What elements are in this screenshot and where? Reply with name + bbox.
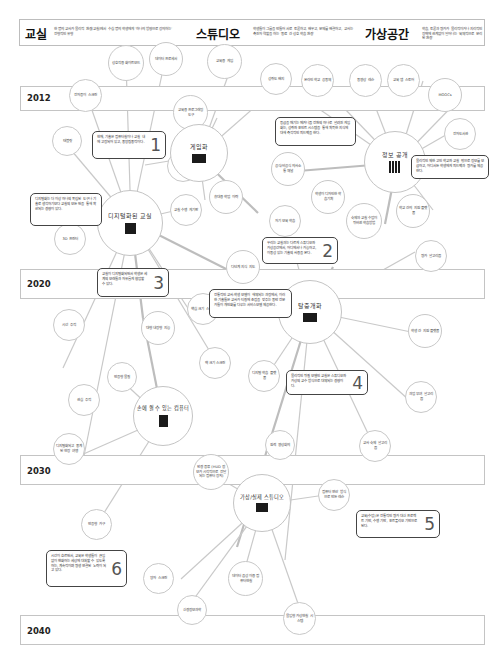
node-formal-informal-channels: 공식/비공식 의사소통 채널: [271, 152, 305, 186]
note-number: 4: [352, 380, 363, 385]
hub-label: 정보 공개: [382, 151, 408, 159]
node-digital-field-trip: 디지털화되고 중계된 현장 여행: [53, 433, 85, 465]
hub-label: 탈중개화: [298, 302, 322, 310]
node-educational-games: 교육용 게임: [207, 44, 242, 79]
note-4: 물리적인 뒤질 모델인 교실은 스튜디오와 가상의 교수 방식으로 대체되는 경…: [286, 370, 368, 395]
note-number: 1: [150, 143, 161, 148]
node-classroom-performance-board: 교실 수행 게기판: [170, 194, 202, 226]
note-disaggregation: 전통적인 교사-학생 모델이 해체되는 과정에서, 이러한 기술들은 교사가 티…: [209, 289, 292, 318]
node-student-designed-learning: 학생이 디자인한 학습기획: [311, 180, 345, 214]
note-6: 시간이 흐르면서, 교육은 학생들이 끊임없이 변화하는 세상에 대처할 수 있…: [46, 550, 127, 587]
year-label: 2012: [27, 93, 51, 103]
node-adaptive-material: 반응형 물질: [107, 362, 137, 392]
node-peer-platform: 학생 간 지원 플랫폼: [408, 314, 442, 348]
node-achievement-badge: 성취도 배지: [260, 63, 292, 95]
touch-screen-icon: [125, 223, 136, 234]
virtual-space-description: 학습, 토론과 평가가 물리적이거나 지리적인 장벽에 관계없이 일어나는 '육…: [422, 27, 484, 41]
node-inter-school-platform: 학교 간의 지원 플랫폼: [396, 194, 430, 228]
note-number: 3: [153, 280, 164, 285]
note-2: 우리는 교실과는 다르게 스튜디오와 가상공간에서, 어디에서나 가능하고, 이…: [262, 237, 338, 264]
note-number: 5: [424, 522, 435, 527]
studio-description: 학생들이 그룹을 만들어 서로 토론하고, 배우고, 문제를 해결하고, 교사는…: [253, 27, 353, 36]
classroom-title: 교실: [25, 25, 47, 42]
node-shape-screen: 양자 스크린: [143, 563, 174, 594]
shuffle-icon: [303, 313, 317, 322]
note-digital-classroom: 디지털화는 더 이상 하나의 독립된 도구나 기술로 생각하기보다 교실의 모든…: [30, 193, 102, 226]
header-legend: 교실 한 명의 교사가 물리적 환경(교실)에서 수십 명의 학생에게 '하나의…: [19, 19, 485, 46]
note-3: 교실이 디지털화되면서 학생은 세계의 모래들과 자유롭게 협업할 수 있다. …: [97, 268, 169, 297]
node-responsive-furniture: 반응형 가구: [81, 509, 112, 540]
year-label: 2040: [27, 626, 51, 636]
year-label: 2030: [27, 466, 51, 476]
node-data-processor: 데이터 프로세서: [149, 42, 183, 76]
books-icon: [389, 161, 401, 173]
node-edu-app-store: 교육 앱 스토어: [387, 64, 420, 97]
hub-wearable-computer: 손에 쥘 수 있는 컴퓨터: [133, 386, 193, 446]
node-teleconference: 원격 영상회의: [265, 430, 295, 460]
node-e-library: 전자도서관: [444, 118, 476, 150]
note-number: 2: [322, 248, 333, 253]
hub-digital-classroom: 디지털화된 교실: [97, 190, 163, 256]
node-wall-size-screen: 벽 크기 스크린: [199, 347, 231, 379]
node-teacher-grading-algorithm: 교사 숙제 알고리즘: [359, 430, 391, 462]
hub-label: 가상/실제 스튜디오: [240, 494, 283, 501]
classroom-description: 한 명의 교사가 물리적 환경(교실)에서 수십 명의 학생에게 '하나의 방향…: [54, 27, 174, 36]
node-self-assessment-learning: 자기 보육 학습: [269, 205, 301, 237]
note-gamification: 등급을 매기는 메커니즘 전환의 하나로 알려진 게임화는, 성취와 포인트 시…: [275, 117, 356, 146]
node-tablet: 태블릿: [52, 126, 82, 156]
node-digital-learning-platform: 디지털 학습 플랫폼: [248, 360, 280, 392]
hub-gamification: 게임화: [170, 124, 228, 182]
node-data-mixed-reality: 데이터 음성 이용 컴퓨터현실: [228, 561, 263, 596]
node-neuro-informatics: 신경정보과학: [177, 595, 207, 625]
hub-label: 손에 쥘 수 있는 컴퓨터: [137, 405, 189, 412]
node-e-paper-screen: 전자종이 스크린: [69, 79, 102, 112]
note-5: 교육(수업)은 전통적인 평가 대신 프로젝트 기반, 수행 기반, 포트폴리오…: [356, 510, 440, 538]
hands-device-icon: [159, 415, 168, 427]
education-technology-roadmap-diagram: 교실 한 명의 교사가 물리적 환경(교실)에서 수십 명의 학생에게 '하나의…: [0, 0, 497, 654]
monitor-icon: [256, 503, 268, 512]
node-hud-computer-glasses: 안경 종류 (HUD 정보가 시각적으로 전달되는 컴퓨터 장치): [193, 454, 229, 490]
node-large-built-in-display: 대형 내장형 지능: [141, 311, 175, 345]
game-controller-icon: [192, 154, 206, 163]
node-online-school-community: 온라인 학교 공동체: [301, 64, 334, 97]
studio-title: 스튜디오: [196, 25, 240, 42]
node-interactive-whiteboard: 상호작용 화이트보드: [108, 45, 144, 81]
node-immersive-vr-system: 몰입형 가상현실 시스템: [283, 602, 316, 635]
note-open-information: 물리적인 제한 고인 학교와 교실 밖으로 정보를 보급하고, 어디서든 학생에…: [411, 155, 489, 179]
year-label: 2020: [27, 279, 51, 289]
hub-virtual-studio: 가상/실제 스튜디오: [233, 474, 291, 532]
virtual-space-title: 가상공간: [365, 25, 409, 42]
note-1: 현재, 기술은 컴퓨터실이나 교실 내에 고정되어 있고, 중앙집중적이다. 1: [92, 131, 166, 159]
note-number: 6: [111, 566, 122, 571]
node-computer-generated-lessons: 컴퓨터 연산 방식으로 만든 레슨: [318, 479, 350, 511]
hub-label: 게임화: [190, 143, 208, 151]
hub-label: 디지털화된 교실: [108, 212, 152, 220]
node-3d-printer: 3D 프린터: [54, 223, 86, 255]
node-flipped-classroom: 숙제와 교실 수업이 뒤바뀐 학습방법: [346, 203, 382, 239]
node-video-lessons: 동영상 레슨: [349, 64, 382, 97]
node-attention-tracking: 관심 추적: [68, 384, 100, 416]
node-multi-step-guidance: 다단계 지식 지도: [226, 250, 260, 284]
node-portable-learning-trace: 휴대용 학업 이력: [209, 180, 243, 214]
node-assessment-algorithm: 평가 알고리즘: [415, 240, 447, 272]
node-task-algorithm: 과업 부여 알고리즘: [405, 381, 437, 413]
year-band-2040: 2040: [20, 615, 485, 645]
node-moocs: MOOCs: [428, 78, 462, 112]
node-eye-tracking: 시선 추적: [53, 309, 85, 341]
